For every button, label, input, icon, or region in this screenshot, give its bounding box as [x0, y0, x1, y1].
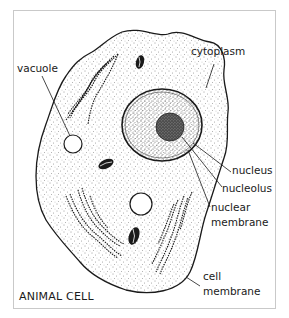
- animal-cell-diagram: vacuole cytoplasm nucleus nucleolus nucl…: [0, 0, 289, 318]
- label-nucleus: nucleus: [232, 164, 273, 176]
- label-nuclear-membrane-line2: membrane: [211, 216, 268, 228]
- label-cell-membrane-line1: cell: [203, 270, 221, 282]
- label-cytoplasm: cytoplasm: [191, 45, 245, 57]
- cell-membrane-shape: [36, 30, 228, 292]
- vacuole-shape: [64, 135, 82, 153]
- nucleolus-shape: [156, 113, 184, 141]
- label-vacuole: vacuole: [17, 62, 58, 74]
- label-cell-membrane-line2: membrane: [203, 285, 260, 297]
- vacuole-shape-2: [130, 193, 152, 215]
- label-nucleolus: nucleolus: [222, 182, 272, 194]
- diagram-title: ANIMAL CELL: [19, 290, 94, 303]
- label-nuclear-membrane-line1: nuclear: [211, 201, 251, 213]
